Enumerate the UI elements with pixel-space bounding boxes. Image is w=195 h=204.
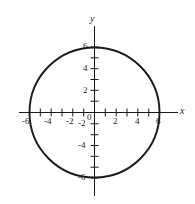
- y-tick-label-2: 2: [83, 86, 88, 95]
- origin-label: 0: [87, 113, 92, 122]
- x-tick-label-neg6: -6: [22, 117, 30, 126]
- x-tick-label-2: 2: [113, 117, 118, 126]
- plot-canvas: [0, 0, 195, 204]
- x-tick-label-6: 6: [156, 117, 161, 126]
- x-axis-label: x: [180, 106, 184, 116]
- y-tick-label-6: 6: [83, 42, 88, 51]
- x-tick-label-4: 4: [135, 117, 140, 126]
- y-tick-label-4: 4: [83, 64, 88, 73]
- x-tick-label-neg2: -2: [66, 117, 74, 126]
- circle-plot-figure: -6 -4 -2 2 4 6 0 6 4 2 -2 -4 -6 x y: [0, 0, 195, 204]
- y-axis-label: y: [90, 14, 94, 24]
- y-tick-label-neg2: -2: [78, 119, 86, 128]
- x-tick-label-neg4: -4: [44, 117, 52, 126]
- y-tick-label-neg4: -4: [78, 141, 86, 150]
- y-tick-label-neg6: -6: [78, 173, 86, 182]
